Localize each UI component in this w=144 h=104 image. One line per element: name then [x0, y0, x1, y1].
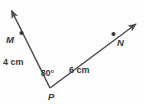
- angle-measure-label: 80°: [41, 69, 54, 78]
- point-label-m: M: [6, 35, 14, 45]
- angle-diagram-figure: M N P 4 cm 6 cm 80°: [0, 0, 144, 104]
- point-label-p: P: [48, 92, 54, 102]
- point-dot-n: [111, 32, 115, 36]
- segment-length-label-pn: 6 cm: [69, 66, 90, 75]
- point-dot-m: [19, 31, 23, 35]
- segment-length-label-pm: 4 cm: [3, 58, 24, 67]
- ray-pn: [50, 24, 136, 88]
- point-label-n: N: [117, 38, 124, 48]
- geometry-drawing: [0, 0, 144, 104]
